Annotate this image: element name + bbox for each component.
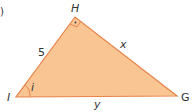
triangle-diagram: ) H I G 5 x y i xyxy=(0,0,194,112)
vertex-label-g: G xyxy=(181,91,190,104)
side-label-ig: y xyxy=(93,98,101,111)
vertex-label-i: I xyxy=(7,91,10,104)
side-label-hg: x xyxy=(119,38,127,51)
side-label-hi: 5 xyxy=(38,46,45,59)
angle-label-i: i xyxy=(31,81,34,94)
part-marker: ) xyxy=(0,6,4,17)
vertex-label-h: H xyxy=(71,2,79,15)
